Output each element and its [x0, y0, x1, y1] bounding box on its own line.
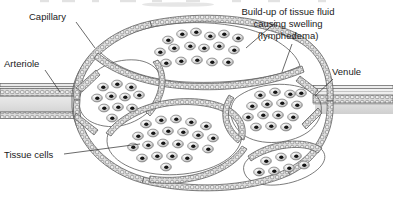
- label-tissue-cells-group: Tissue cells: [4, 144, 140, 160]
- label-tissue-cells: Tissue cells: [4, 149, 54, 160]
- label-buildup-line3: (lymphedema): [258, 30, 319, 41]
- label-buildup-line2: causing swelling: [253, 18, 322, 29]
- lymphedema-diagram: Capillary Arteriole Tissue cells Venule …: [0, 0, 393, 205]
- label-arteriole: Arteriole: [4, 58, 39, 69]
- lobe-center: [107, 101, 242, 175]
- venule-vessel: [313, 86, 393, 115]
- diagram-canvas: Capillary Arteriole Tissue cells Venule …: [0, 0, 393, 205]
- label-capillary: Capillary: [29, 11, 66, 22]
- tissue-cell-cluster-right: [243, 88, 307, 131]
- tissue-cell-cluster-top: [155, 28, 244, 67]
- leader-capillary: [76, 22, 95, 48]
- label-buildup-line1: Build-up of tissue fluid: [242, 6, 335, 17]
- label-venule: Venule: [332, 66, 361, 77]
- arteriole-vessel: [0, 84, 80, 119]
- tissue-cell-cluster-center: [128, 115, 219, 171]
- label-capillary-group: Capillary: [29, 11, 95, 48]
